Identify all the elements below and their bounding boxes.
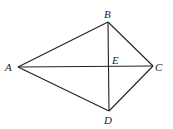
label-E: E [111,54,119,66]
segment-AB [18,22,108,67]
segment-BD [108,22,109,111]
label-C: C [155,61,163,73]
segment-DA [18,67,109,111]
label-D: D [103,114,112,126]
label-A: A [4,61,12,73]
segment-AC [18,66,153,67]
kite-diagram: A B E C D [0,0,173,129]
segment-CD [109,66,153,111]
label-B: B [104,8,111,20]
